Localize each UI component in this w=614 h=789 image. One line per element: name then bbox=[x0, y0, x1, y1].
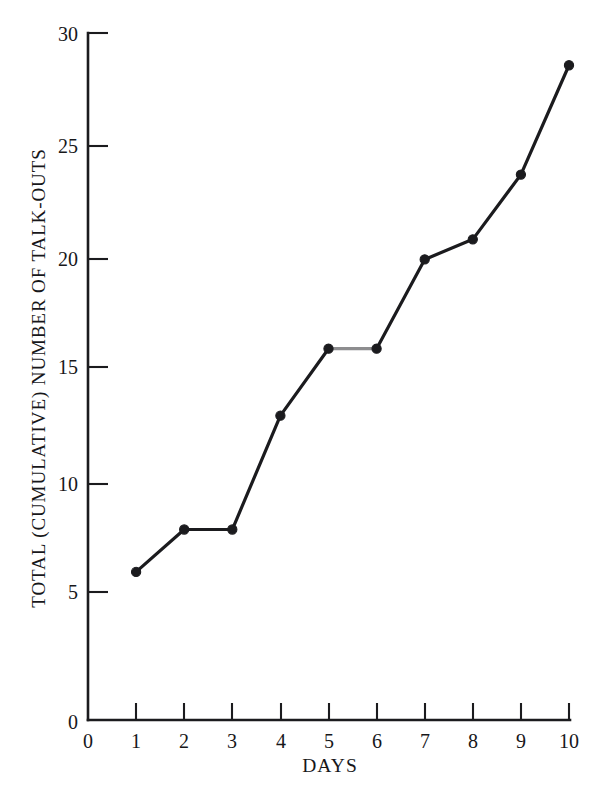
series-segment bbox=[521, 65, 569, 174]
y-tick-labels: 051015202530 bbox=[58, 23, 78, 733]
series-segment bbox=[473, 175, 521, 240]
data-point bbox=[180, 525, 189, 534]
x-tick-label: 9 bbox=[516, 730, 526, 752]
x-tick-label: 10 bbox=[559, 730, 579, 752]
data-point bbox=[324, 344, 333, 353]
x-tick-label: 3 bbox=[227, 730, 237, 752]
series-segment bbox=[377, 259, 425, 348]
chart-page: 012345678910 051015202530 DAYS TOTAL (CU… bbox=[0, 0, 614, 789]
series-segment bbox=[136, 530, 184, 572]
y-axis-title: TOTAL (CUMULATIVE) NUMBER OF TALK-OUTS bbox=[28, 148, 50, 607]
data-point bbox=[132, 567, 141, 576]
y-tick-label: 0 bbox=[68, 711, 78, 733]
x-tick-label: 6 bbox=[372, 730, 382, 752]
x-tick-label: 7 bbox=[420, 730, 430, 752]
data-point bbox=[516, 170, 525, 179]
data-point bbox=[468, 235, 477, 244]
x-tick-labels: 012345678910 bbox=[83, 730, 579, 752]
y-axis-ticks bbox=[88, 33, 108, 592]
series-segment bbox=[425, 239, 473, 259]
y-tick-label: 10 bbox=[58, 473, 78, 495]
x-axis-ticks bbox=[136, 703, 569, 720]
data-series bbox=[132, 61, 574, 577]
line-chart: 012345678910 051015202530 DAYS TOTAL (CU… bbox=[0, 0, 614, 789]
axes-group bbox=[88, 33, 570, 720]
x-axis-title: DAYS bbox=[302, 755, 358, 776]
data-point bbox=[372, 344, 381, 353]
series-segment bbox=[232, 416, 280, 530]
x-tick-label: 4 bbox=[276, 730, 286, 752]
x-tick-label: 5 bbox=[324, 730, 334, 752]
data-point bbox=[276, 411, 285, 420]
x-tick-label: 8 bbox=[468, 730, 478, 752]
y-tick-label: 15 bbox=[58, 356, 78, 378]
x-tick-label: 2 bbox=[179, 730, 189, 752]
y-tick-label: 25 bbox=[58, 135, 78, 157]
y-tick-label: 20 bbox=[58, 248, 78, 270]
data-point bbox=[564, 61, 573, 70]
y-tick-label: 5 bbox=[68, 581, 78, 603]
data-point bbox=[228, 525, 237, 534]
y-tick-label: 30 bbox=[58, 23, 78, 45]
series-segment bbox=[280, 349, 328, 416]
data-point bbox=[420, 255, 429, 264]
x-tick-label: 0 bbox=[83, 730, 93, 752]
x-tick-label: 1 bbox=[131, 730, 141, 752]
